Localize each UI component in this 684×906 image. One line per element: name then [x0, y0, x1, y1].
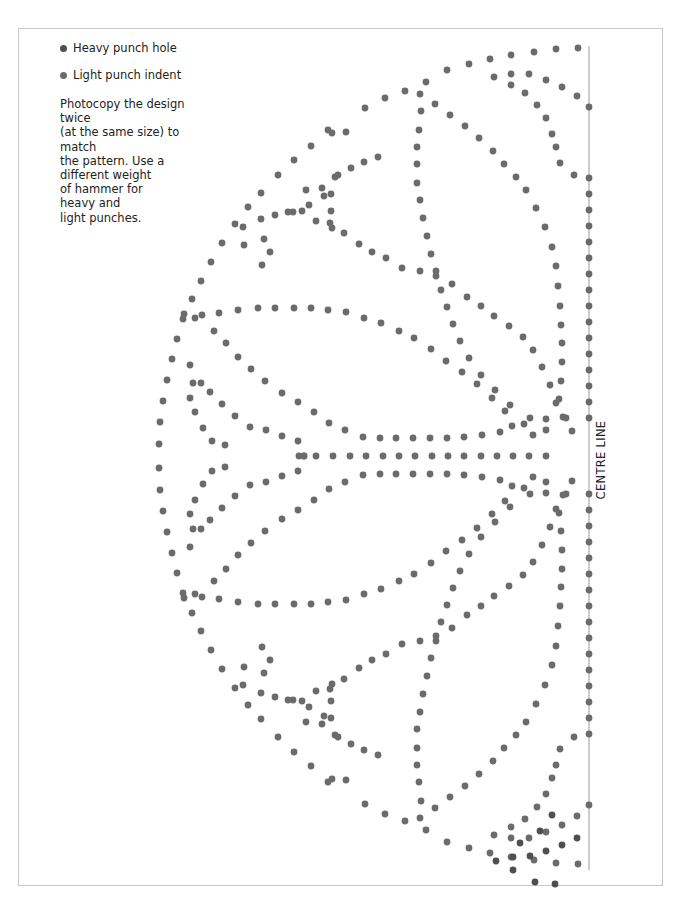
punch-dot [308, 601, 315, 608]
punch-dot [330, 453, 337, 460]
punch-dot [417, 91, 424, 98]
punch-dot [509, 483, 516, 490]
punch-dot [574, 93, 581, 100]
punch-dot [559, 340, 566, 347]
punch-dot-heavy [493, 858, 500, 865]
punch-dot-heavy [543, 848, 550, 855]
punch-dot [326, 420, 333, 427]
punch-dot [478, 453, 485, 460]
punch-dot [235, 307, 242, 314]
punch-dot [156, 441, 163, 448]
centre-line-dot [586, 587, 593, 594]
punch-dot [417, 638, 424, 645]
punch-dot [549, 244, 556, 251]
punch-dot [549, 662, 556, 669]
punch-dot [428, 346, 435, 353]
centre-line-dot [586, 491, 593, 498]
punch-dot [199, 594, 206, 601]
punch-dot [520, 572, 527, 579]
centre-line-dot [586, 523, 593, 530]
centre-line-dot [586, 683, 593, 690]
punch-dot [328, 715, 335, 722]
punch-dot [478, 603, 485, 610]
punch-dot [429, 453, 436, 460]
punch-dot [558, 584, 565, 591]
centre-line-dot [586, 802, 593, 809]
punch-dot [466, 61, 473, 68]
punch-dot [306, 202, 313, 209]
punch-dot [476, 135, 483, 142]
punch-dot [380, 453, 387, 460]
punch-dot [295, 399, 302, 406]
punch-dot [543, 829, 550, 836]
punch-dot [245, 204, 252, 211]
punch-dot [325, 307, 332, 314]
punch-dot [369, 249, 376, 256]
punch-dot [459, 369, 466, 376]
punch-dot [247, 424, 254, 431]
punch-dot [232, 685, 239, 692]
punch-dot [164, 529, 171, 536]
punch-dot [245, 702, 252, 709]
punch-dot [208, 647, 215, 654]
punch-dot [223, 340, 230, 347]
punch-dot [543, 490, 550, 497]
punch-dot [416, 127, 423, 134]
punch-dot [261, 236, 268, 243]
punch-dot [343, 309, 350, 316]
punch-dot [513, 732, 520, 739]
punch-dot [411, 335, 418, 342]
punch-dot [209, 468, 216, 475]
punch-dot [174, 336, 181, 343]
punch-dot [328, 208, 335, 215]
punch-dot [474, 525, 481, 532]
punch-dot [497, 477, 504, 484]
punch-dot [222, 464, 229, 471]
punch-dot [198, 380, 205, 387]
punch-dot [508, 82, 515, 89]
punch-dot [445, 453, 452, 460]
punch-dot [262, 378, 269, 385]
punch-dot [211, 328, 218, 335]
punch-dot [555, 623, 562, 630]
punch-dot [311, 409, 318, 416]
punch-dot [559, 547, 566, 554]
punch-dot [285, 209, 292, 216]
punch-dot [341, 676, 348, 683]
punch-dot [521, 421, 528, 428]
punch-dot [491, 74, 498, 81]
punch-dot [272, 601, 279, 608]
punch-dot [327, 686, 334, 693]
punch-dot [491, 832, 498, 839]
punch-dot [489, 511, 496, 518]
punch-dot [569, 428, 576, 435]
punch-dot [326, 486, 333, 493]
punch-dot [275, 734, 282, 741]
punch-dot [258, 190, 265, 197]
punch-dot [200, 425, 207, 432]
punch-dot [319, 721, 326, 728]
punch-dot [527, 415, 534, 422]
punch-dot [377, 435, 384, 442]
centre-line-dot [586, 635, 593, 642]
punch-dot [559, 359, 566, 366]
punch-dot [279, 473, 286, 480]
centre-line-dot [586, 239, 593, 246]
punch-dot [444, 67, 451, 74]
punch-dot [356, 241, 363, 248]
centre-line-dot [586, 619, 593, 626]
punch-dot [219, 240, 226, 247]
punch-dot [261, 670, 268, 677]
punch-dot [543, 453, 550, 460]
punch-dot [464, 612, 471, 619]
punch-dot [501, 161, 508, 168]
punch-dot [321, 713, 328, 720]
punch-dot [526, 835, 533, 842]
punch-dot [443, 548, 450, 555]
centre-line-dot [586, 367, 593, 374]
punch-dot-heavy [532, 879, 539, 886]
punch-dot [449, 281, 456, 288]
punch-dot [207, 389, 214, 396]
punch-dot [200, 481, 207, 488]
punch-dot [478, 303, 485, 310]
